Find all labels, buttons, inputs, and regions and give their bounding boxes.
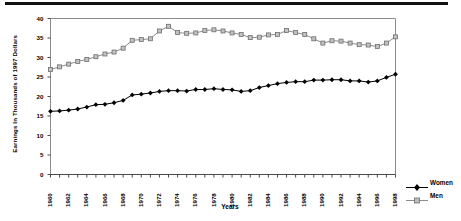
x-tick-label: 1996: [373, 193, 380, 207]
y-tick-label: 10: [28, 132, 44, 139]
legend-label-women: Women: [430, 179, 453, 186]
x-tick-label: 1960: [46, 193, 53, 207]
legend-item-women[interactable]: Women: [406, 176, 453, 189]
square-marker-icon: [406, 191, 428, 200]
x-tick-label: 1964: [82, 193, 89, 207]
x-tick-label: 1976: [191, 193, 198, 207]
chart-legend: Women Men: [406, 176, 453, 202]
y-tick-label: 25: [28, 73, 44, 80]
x-tick-label: 1998: [391, 193, 398, 207]
plot-area: [0, 0, 461, 221]
x-tick-label: 1990: [318, 193, 325, 207]
legend-label-men: Men: [430, 192, 443, 199]
y-tick-label: 35: [28, 34, 44, 41]
x-tick-label: 1966: [101, 193, 108, 207]
x-tick-label: 1968: [119, 193, 126, 207]
x-tick-label: 1980: [228, 193, 235, 207]
y-tick-label: 0: [28, 171, 44, 178]
x-tick-label: 1962: [64, 193, 71, 207]
x-tick-label: 1986: [282, 193, 289, 207]
series-women: [48, 72, 398, 114]
line-chart: Earnings In Thousands of 1997 Dollars Ye…: [0, 0, 461, 221]
y-tick-label: 30: [28, 54, 44, 61]
x-tick-label: 1982: [246, 193, 253, 207]
x-tick-label: 1992: [337, 193, 344, 207]
x-tick-label: 1972: [155, 193, 162, 207]
x-tick-label: 1988: [300, 193, 307, 207]
x-tick-label: 1974: [173, 193, 180, 207]
x-tick-label: 1978: [210, 193, 217, 207]
x-tick-label: 1994: [355, 193, 362, 207]
y-tick-label: 15: [28, 112, 44, 119]
x-tick-label: 1970: [137, 193, 144, 207]
y-tick-label: 5: [28, 151, 44, 158]
x-tick-label: 1984: [264, 193, 271, 207]
y-axis-title: Earnings In Thousands of 1997 Dollars: [11, 20, 19, 168]
diamond-marker-icon: [406, 178, 428, 187]
legend-item-men[interactable]: Men: [406, 189, 453, 202]
y-tick-label: 20: [28, 93, 44, 100]
series-men: [49, 24, 398, 71]
y-axis-title-wrapper: Earnings In Thousands of 1997 Dollars: [2, 28, 24, 173]
y-tick-label: 40: [28, 15, 44, 22]
